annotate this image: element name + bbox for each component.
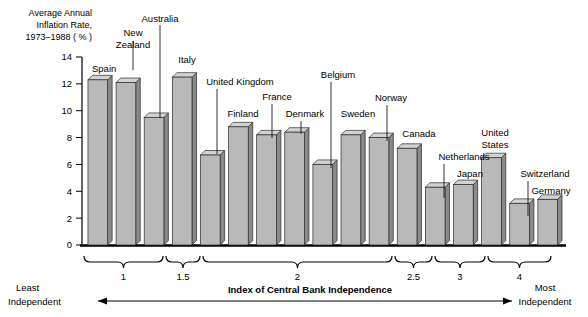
bar-switzerland <box>510 199 534 245</box>
bar-japan <box>453 180 477 245</box>
bar-front-face <box>425 187 445 245</box>
bar-top-face <box>229 122 253 127</box>
bracket-label-1.5: 1.5 <box>176 271 189 282</box>
bar-front-face <box>397 148 417 245</box>
bar-sweden <box>341 130 365 245</box>
bar-united-kingdom <box>200 151 224 245</box>
bar-top-face <box>200 151 224 156</box>
bar-label-united-states: States <box>482 139 509 150</box>
bar-side-face <box>529 199 534 245</box>
bar-top-face <box>172 73 196 78</box>
bar-france <box>257 130 281 245</box>
bar-side-face <box>333 160 338 245</box>
bar-front-face <box>88 80 108 245</box>
y-tick-label: 12 <box>61 78 72 89</box>
bar-side-face <box>389 133 394 245</box>
bar-front-face <box>313 164 333 245</box>
bar-germany <box>538 195 562 245</box>
axis-direction-annotation: Least Independent Most Independent Index… <box>8 282 572 307</box>
bar-side-face <box>108 75 113 245</box>
bar-front-face <box>482 158 502 245</box>
bar-front-face <box>200 155 220 245</box>
y-axis-title-line-1: Average Annual <box>29 8 92 18</box>
most-independent-line-1: Most <box>535 282 556 293</box>
bar-finland <box>229 122 253 245</box>
bar-top-face <box>116 78 140 83</box>
most-independent-line-2: Independent <box>519 296 572 307</box>
bracket-label-2: 2 <box>295 271 300 282</box>
least-independent-line-2: Independent <box>8 296 61 307</box>
y-tick-label: 14 <box>61 51 72 62</box>
bar-top-face <box>341 130 365 135</box>
bar-front-face <box>285 132 305 245</box>
bar-label-japan: Japan <box>457 168 483 179</box>
bar-label-italy: Italy <box>178 54 196 65</box>
bar-front-face <box>257 135 277 245</box>
bar-front-face <box>510 203 530 245</box>
bar-top-face <box>453 180 477 185</box>
bar-belgium <box>313 160 337 245</box>
bar-canada <box>397 144 421 245</box>
bar-top-face <box>144 113 168 118</box>
bracket-4 <box>488 256 551 268</box>
bar-top-face <box>369 133 393 138</box>
bracket-label-1: 1 <box>121 271 126 282</box>
bar-label-sweden: Sweden <box>341 108 375 119</box>
bar-top-face <box>285 128 309 133</box>
bracket-1.5 <box>166 256 200 268</box>
bracket-label-2.5: 2.5 <box>407 271 420 282</box>
bar-side-face <box>361 130 366 245</box>
bar-spain <box>88 75 112 245</box>
bar-label-belgium: Belgium <box>321 69 355 80</box>
y-tick-label: 0 <box>67 239 72 250</box>
bar-side-face <box>473 180 478 245</box>
y-axis-title-line-2: Inflation Rate, <box>36 20 92 30</box>
bar-front-face <box>341 135 361 245</box>
bar-label-france: France <box>262 91 292 102</box>
bar-denmark <box>285 128 309 245</box>
bar-label-new-zealand: New <box>123 27 142 38</box>
bar-front-face <box>369 138 389 245</box>
bar-netherlands <box>425 183 449 245</box>
least-independent-line-1: Least <box>16 282 40 293</box>
x-axis-caption: Index of Central Bank Independence <box>228 284 392 295</box>
y-axis-title: Average Annual Inflation Rate, 1973–1988… <box>25 8 92 42</box>
bar-front-face <box>229 127 249 245</box>
bar-front-face <box>538 199 558 245</box>
bar-label-new-zealand: Zealand <box>116 39 150 50</box>
bar-top-face <box>425 183 449 188</box>
bar-front-face <box>453 185 473 245</box>
y-tick-label: 2 <box>67 213 72 224</box>
bar-side-face <box>417 144 422 245</box>
y-tick-label: 8 <box>67 132 72 143</box>
bar-label-united-states: United <box>481 127 508 138</box>
bar-label-united-kingdom: United Kingdom <box>206 76 274 87</box>
bar-side-face <box>220 151 225 245</box>
bar-top-face <box>257 130 281 135</box>
bar-side-face <box>558 195 563 245</box>
bar-side-face <box>445 183 450 245</box>
bar-italy <box>172 73 196 245</box>
bar-side-face <box>248 122 253 245</box>
bar-side-face <box>304 128 309 245</box>
bracket-label-4: 4 <box>517 271 522 282</box>
bar-side-face <box>192 73 197 245</box>
bar-label-spain: Spain <box>92 63 116 74</box>
bar-side-face <box>136 78 141 245</box>
bar-front-face <box>144 117 164 245</box>
bar-side-face <box>276 130 281 245</box>
inflation-vs-cbi-chart: Average Annual Inflation Rate, 1973–1988… <box>0 0 588 317</box>
bracket-3 <box>435 256 485 268</box>
bar-label-netherlands: Netherlands <box>438 151 489 162</box>
arrow-left-head-icon <box>98 298 107 305</box>
bar-label-norway: Norway <box>375 92 407 103</box>
bar-side-face <box>164 113 169 245</box>
bar-top-face <box>313 160 337 165</box>
y-tick-label: 10 <box>61 105 72 116</box>
bar-front-face <box>172 77 192 245</box>
bar-series <box>88 73 562 245</box>
x-axis-brackets: 11.522.534 <box>84 256 551 282</box>
bar-label-switzerland: Switzerland <box>520 168 569 179</box>
bar-united-states <box>482 153 506 245</box>
arrow-right-head-icon <box>503 298 512 305</box>
